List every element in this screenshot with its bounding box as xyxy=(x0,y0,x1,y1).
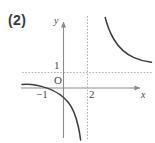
curve-left-branch xyxy=(22,84,81,140)
y-axis-name-label: y xyxy=(54,16,58,26)
x-tick-label-2: 2 xyxy=(89,89,95,100)
y-tick-label-1: 1 xyxy=(54,60,60,71)
x-axis-name-label: x xyxy=(141,90,145,100)
origin-label: O xyxy=(54,75,62,86)
curve-right-branch xyxy=(105,18,151,63)
panel-number-label: (2) xyxy=(8,13,26,27)
x-tick-label-minus-1: −1 xyxy=(36,89,48,100)
math-figure-panel: (2) 1 O −1 2 y x xyxy=(0,0,155,143)
